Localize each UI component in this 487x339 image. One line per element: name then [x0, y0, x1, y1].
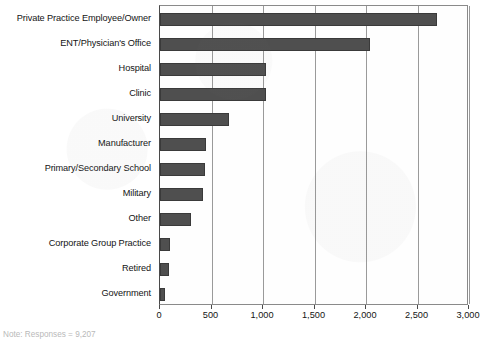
x-axis-tick [211, 305, 212, 309]
bar [160, 213, 191, 226]
category-label-column: Private Practice Employee/OwnerENT/Physi… [0, 5, 155, 305]
category-label: Other [0, 213, 151, 224]
x-axis-tick [314, 305, 315, 309]
bar [160, 113, 229, 126]
x-axis-tick [417, 305, 418, 309]
bar [160, 288, 165, 301]
category-label: Government [0, 288, 151, 299]
x-axis-tick [468, 305, 469, 309]
category-label: Primary/Secondary School [0, 163, 151, 174]
category-label: Military [0, 188, 151, 199]
bar [160, 88, 266, 101]
x-axis-tick-label: 3,000 [457, 310, 480, 321]
x-axis: 05001,0001,5002,0002,5003,000 [159, 305, 468, 327]
x-axis-tick-label: 1,000 [251, 310, 274, 321]
x-axis-tick-label: 0 [156, 310, 161, 321]
bar [160, 138, 206, 151]
bar-series [160, 6, 467, 304]
category-label: Private Practice Employee/Owner [0, 13, 151, 24]
bar [160, 163, 205, 176]
bar-chart: Private Practice Employee/OwnerENT/Physi… [0, 0, 487, 339]
category-label: Hospital [0, 63, 151, 74]
x-axis-tick [262, 305, 263, 309]
x-axis-tick-label: 2,000 [354, 310, 377, 321]
category-label: Retired [0, 263, 151, 274]
x-axis-tick-label: 2,500 [405, 310, 428, 321]
bar [160, 13, 437, 26]
x-axis-tick-label: 1,500 [302, 310, 325, 321]
gridline [469, 6, 470, 304]
bar [160, 38, 370, 51]
chart-footnote: Note: Responses = 9,207 [3, 330, 96, 339]
x-axis-tick-label: 500 [203, 310, 218, 321]
category-label: University [0, 113, 151, 124]
category-label: Clinic [0, 88, 151, 99]
category-label: ENT/Physician's Office [0, 38, 151, 49]
bar [160, 188, 203, 201]
bar [160, 263, 169, 276]
category-label: Corporate Group Practice [0, 238, 151, 249]
plot-area [159, 5, 468, 305]
x-axis-tick [159, 305, 160, 309]
bar [160, 238, 170, 251]
x-axis-tick [365, 305, 366, 309]
bar [160, 63, 266, 76]
category-label: Manufacturer [0, 138, 151, 149]
